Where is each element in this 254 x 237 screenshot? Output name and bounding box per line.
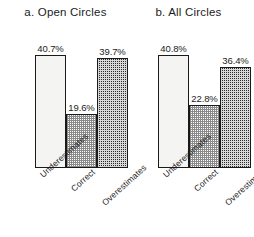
- bar-overestimates: [220, 67, 251, 168]
- category-label-overestimates: Overestimates: [223, 162, 254, 207]
- bar-value-label: 19.6%: [63, 102, 100, 113]
- bar-value-label: 40.7%: [32, 43, 69, 54]
- panel-open-circles: a. Open Circles 40.7% 19.6% 39.7% Undere…: [0, 0, 131, 237]
- panel-b-plot-area: 40.8% 22.8% 36.4% Underestimates Correct…: [123, 0, 254, 237]
- figure: a. Open Circles 40.7% 19.6% 39.7% Undere…: [0, 0, 254, 237]
- panel-a-plot-area: 40.7% 19.6% 39.7% Underestimates Correct…: [0, 0, 131, 237]
- bar-value-label: 22.8%: [186, 93, 223, 104]
- category-label-correct: Correct: [69, 167, 97, 194]
- bar-value-label: 36.4%: [217, 55, 254, 66]
- panel-all-circles: b. All Circles 40.8% 22.8% 36.4% Underes…: [123, 0, 254, 237]
- bar-value-label: 40.8%: [155, 43, 192, 54]
- category-label-correct: Correct: [192, 167, 220, 194]
